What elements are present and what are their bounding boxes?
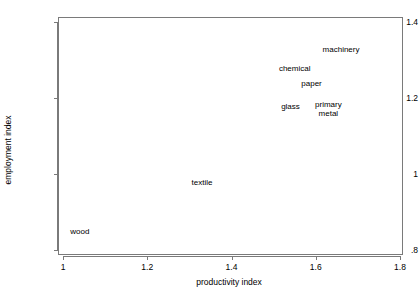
y-axis-tick-label: 1 — [386, 169, 420, 179]
y-axis-tick-label: 1.2 — [386, 93, 420, 103]
scatter-plot-figure: 1.41.21.8 11.21.41.61.8 woodtextileglass… — [0, 0, 420, 300]
data-point-label: textile — [192, 177, 213, 186]
y-axis-tick — [54, 250, 58, 251]
x-axis-tick-label: 1 — [61, 262, 66, 272]
x-axis-tick-label: 1.2 — [141, 262, 153, 272]
y-axis-line — [57, 22, 58, 250]
data-point-label-line: paper — [301, 78, 321, 87]
data-point-label-line: chemical — [279, 63, 311, 72]
data-point-label: glass — [281, 101, 300, 110]
data-point-label-line: metal — [315, 109, 342, 118]
y-axis-title-text: employment index — [3, 116, 13, 185]
x-axis-title: productivity index — [0, 277, 420, 287]
x-axis-tick-label: 1.6 — [310, 262, 322, 272]
data-point-label-line: primary — [315, 100, 342, 109]
data-point-label-line: textile — [192, 177, 213, 186]
x-axis-line — [63, 256, 400, 257]
x-axis-title-text: productivity index — [196, 277, 262, 287]
data-point-label-line: machinery — [323, 44, 360, 53]
data-point-label: chemical — [279, 63, 311, 72]
data-point-label: wood — [70, 227, 89, 236]
data-point-label-line: wood — [70, 227, 89, 236]
data-point-label: machinery — [323, 44, 360, 53]
y-axis-tick-label: .8 — [386, 245, 420, 255]
x-axis-tick-label: 1.4 — [226, 262, 238, 272]
x-axis-tick-label: 1.8 — [394, 262, 406, 272]
y-axis-title: employment index — [0, 0, 16, 300]
data-point-label-line: glass — [281, 101, 300, 110]
data-point-label: paper — [301, 78, 321, 87]
x-axis-tick — [400, 256, 401, 260]
y-axis-tick-label: 1.4 — [386, 17, 420, 27]
data-point-label: primarymetal — [315, 100, 342, 118]
